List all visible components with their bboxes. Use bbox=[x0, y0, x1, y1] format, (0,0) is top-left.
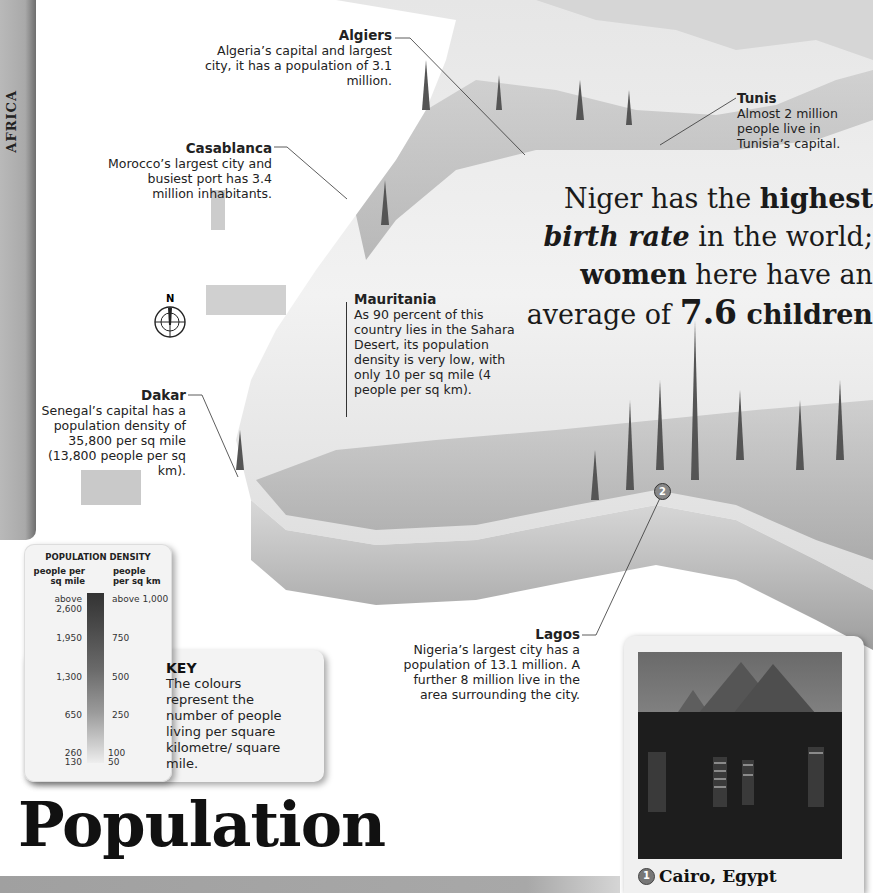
section-tab-label: AFRICA bbox=[4, 90, 32, 153]
key-left-tick: 130 bbox=[28, 757, 82, 767]
quote-text: average of bbox=[527, 299, 680, 330]
annotation-lagos: Lagos Nigeria’s largest city has a popul… bbox=[392, 626, 580, 702]
quote-text: here have an bbox=[687, 259, 873, 290]
cairo-photo bbox=[638, 652, 842, 859]
key-description: The colours represent the number of peop… bbox=[166, 676, 306, 772]
annotation-text: Senegal’s capital has a population densi… bbox=[42, 403, 186, 478]
key-right-header: people per sq km bbox=[113, 566, 163, 586]
map-marker-lagos: 2 bbox=[654, 483, 671, 500]
key-left-tick: 650 bbox=[28, 710, 82, 720]
quote-emphasis: birth rate bbox=[543, 221, 689, 252]
quote-number: 7.6 bbox=[680, 293, 737, 332]
annotation-title: Tunis bbox=[737, 90, 867, 106]
quote-emphasis: highest bbox=[760, 183, 873, 214]
page-title: Population bbox=[18, 790, 385, 860]
density-gradient-bar bbox=[87, 593, 104, 763]
key-right-tick: 500 bbox=[112, 672, 129, 682]
leader-line-casablanca bbox=[272, 144, 352, 204]
annotation-text: Morocco’s largest city and busiest port … bbox=[108, 156, 272, 201]
annotation-text: Algeria’s capital and largest city, it h… bbox=[205, 43, 392, 88]
quote-text: in the world; bbox=[690, 221, 873, 252]
photo-caption-text: Cairo, Egypt bbox=[659, 866, 777, 886]
leader-line-tunis bbox=[660, 95, 740, 155]
annotation-casablanca: Casablanca Morocco’s largest city and bu… bbox=[104, 140, 272, 201]
key-right-tick: 250 bbox=[112, 710, 129, 720]
photo-number-badge: 1 bbox=[638, 868, 655, 885]
photo-caption: 1 Cairo, Egypt bbox=[638, 866, 777, 886]
quote-emphasis: children bbox=[737, 299, 873, 330]
quote-emphasis: women bbox=[580, 259, 687, 290]
key-left-tick: 1,300 bbox=[28, 672, 82, 682]
leader-line-dakar bbox=[188, 392, 248, 482]
key-heading: POPULATION DENSITY bbox=[24, 552, 172, 562]
key-left-tick: above 2,600 bbox=[28, 594, 82, 614]
annotation-algiers: Algiers Algeria’s capital and largest ci… bbox=[200, 27, 392, 88]
key-title: KEY bbox=[166, 660, 197, 676]
key-right-tick: above 1,000 bbox=[112, 594, 168, 604]
leader-line-algiers bbox=[395, 35, 535, 165]
key-left-header: people per sq mile bbox=[33, 566, 85, 586]
key-right-tick: 50 bbox=[108, 757, 119, 767]
key-right-tick: 750 bbox=[112, 633, 129, 643]
annotation-text: As 90 percent of this country lies in th… bbox=[354, 307, 515, 397]
leader-line-mauritania bbox=[346, 302, 347, 417]
leader-line-lagos bbox=[580, 495, 670, 640]
footer-bar bbox=[0, 876, 620, 893]
annotation-title: Algiers bbox=[200, 27, 392, 43]
annotation-dakar: Dakar Senegal’s capital has a population… bbox=[26, 387, 186, 478]
annotation-title: Dakar bbox=[26, 387, 186, 403]
birth-rate-callout: Niger has the highest birth rate in the … bbox=[500, 180, 873, 334]
compass-icon: N bbox=[150, 292, 190, 342]
quote-text: Niger has the bbox=[564, 183, 760, 214]
annotation-tunis: Tunis Almost 2 million people live in Tu… bbox=[737, 90, 867, 151]
annotation-text: Nigeria’s largest city has a population … bbox=[404, 642, 580, 702]
annotation-text: Almost 2 million people live in Tunisia’… bbox=[737, 106, 840, 151]
annotation-title: Casablanca bbox=[104, 140, 272, 156]
annotation-title: Lagos bbox=[392, 626, 580, 642]
svg-text:N: N bbox=[166, 293, 174, 304]
key-left-tick: 1,950 bbox=[28, 633, 82, 643]
